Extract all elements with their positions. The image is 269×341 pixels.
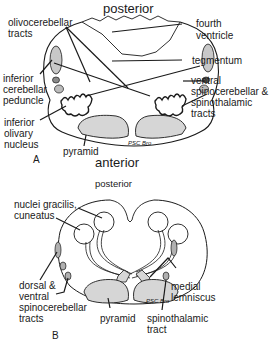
label-dorsal-1: dorsal & xyxy=(19,280,56,291)
label-posterior-b: posterior xyxy=(95,178,132,189)
nucleus-gracilis-right xyxy=(148,212,168,232)
panel-letter-b: B xyxy=(52,330,59,341)
label-nuclei-1: nuclei gracilis, xyxy=(14,199,77,210)
label-olivary-3: nucleus xyxy=(4,139,38,150)
olive-left xyxy=(61,94,92,116)
internal-arcuate-fibers xyxy=(86,230,176,278)
label-dorsal-2: ventral xyxy=(19,291,49,302)
fourth-ventricle-shape xyxy=(82,15,180,56)
label-ventral-2: spinocerebellar & xyxy=(191,86,268,97)
label-icp-3: peduncle xyxy=(3,95,44,106)
pyramid-left-a xyxy=(78,115,129,138)
label-pyramid-b: pyramid xyxy=(100,313,136,324)
pyramid-left-b xyxy=(84,280,129,304)
olive-right xyxy=(155,94,186,116)
label-olivocerebellar-2: tracts xyxy=(8,28,32,39)
signature-a: PSC Bro xyxy=(128,138,151,149)
label-medial-lemniscus-1: medial xyxy=(171,281,200,292)
label-dorsal-3: spinocerebellar xyxy=(19,302,87,313)
label-anterior-a: anterior xyxy=(95,156,139,170)
label-pyramid-a: pyramid xyxy=(63,146,99,157)
label-olivocerebellar-1: olivocerebellar xyxy=(8,17,72,28)
label-olivary-2: olivary xyxy=(4,128,33,139)
label-spinothalamic-1: spinothalamic xyxy=(147,313,208,324)
pyramid-right-a xyxy=(136,115,187,138)
label-posterior-a: posterior xyxy=(103,2,154,16)
label-ventral-1: ventral xyxy=(191,75,221,86)
panel-letter-a: A xyxy=(33,154,40,165)
label-fourth-ventricle-2: ventricle xyxy=(196,30,233,41)
label-dorsal-4: tracts xyxy=(19,313,43,324)
label-icp-2: cerebellar xyxy=(3,84,47,95)
nucleus-cuneatus-right xyxy=(168,224,188,244)
nucleus-cuneatus-left xyxy=(74,224,94,244)
label-tegmentum: tegmentum xyxy=(192,55,242,66)
label-ventral-3: spinothalamic xyxy=(191,97,252,108)
label-nuclei-2: cuneatus xyxy=(14,210,55,221)
label-medial-lemniscus-2: lemniscus xyxy=(171,292,215,303)
label-icp-1: inferior xyxy=(3,73,34,84)
nucleus-gracilis-left xyxy=(94,212,114,232)
label-spinothalamic-2: tract xyxy=(147,324,166,335)
label-olivary-1: inferior xyxy=(4,117,35,128)
signature-b: PSC Bro xyxy=(146,296,169,307)
label-fourth-ventricle-1: fourth xyxy=(196,18,222,29)
label-ventral-4: tracts xyxy=(191,108,215,119)
